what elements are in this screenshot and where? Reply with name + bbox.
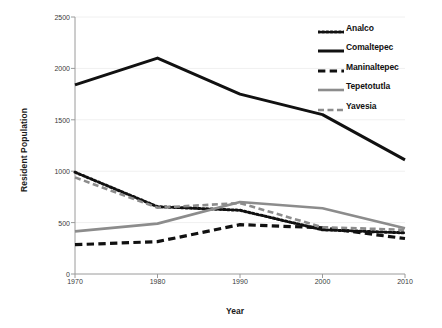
- series-line-yavesia: [75, 177, 405, 229]
- x-tick-label: 1980: [138, 278, 178, 285]
- y-axis-tick-labels: 05001000150020002500: [28, 17, 70, 274]
- y-tick-label: 1500: [30, 116, 70, 123]
- x-axis-tick-labels: 19701980199020002010: [75, 278, 405, 292]
- series-line-tepetotutla: [75, 202, 405, 231]
- x-tick-label: 1990: [220, 278, 260, 285]
- legend-label: Yavesia: [346, 101, 377, 111]
- legend-item-tepetotutla[interactable]: Tepetotutla: [318, 77, 442, 97]
- legend-item-comaltepec[interactable]: Comaltepec: [318, 38, 442, 58]
- line-chart: Resident Population 05001000150020002500…: [0, 0, 442, 328]
- y-tick-label: 2000: [30, 65, 70, 72]
- legend-swatch-icon: [318, 81, 344, 91]
- legend-label: Analco: [346, 23, 374, 33]
- y-tick-label: 1000: [30, 168, 70, 175]
- x-tick-label: 2000: [303, 278, 343, 285]
- chart-legend: AnalcoComaltepecManinaltepecTepetotutlaY…: [318, 18, 442, 116]
- legend-swatch-icon: [318, 23, 344, 33]
- x-tick-label: 2010: [385, 278, 425, 285]
- legend-item-analco[interactable]: Analco: [318, 18, 442, 38]
- y-tick-label: 0: [30, 271, 70, 278]
- legend-label: Tepetotutla: [346, 81, 390, 91]
- x-tick-label: 1970: [55, 278, 95, 285]
- legend-swatch-icon: [318, 42, 344, 52]
- y-tick-label: 500: [30, 219, 70, 226]
- legend-item-yavesia[interactable]: Yavesia: [318, 96, 442, 116]
- legend-swatch-icon: [318, 62, 344, 72]
- legend-swatch-icon: [318, 101, 344, 111]
- x-axis-title: Year: [55, 306, 415, 316]
- legend-label: Comaltepec: [346, 42, 393, 52]
- y-tick-label: 2500: [30, 14, 70, 21]
- legend-item-maninaltepec[interactable]: Maninaltepec: [318, 57, 442, 77]
- legend-label: Maninaltepec: [346, 62, 399, 72]
